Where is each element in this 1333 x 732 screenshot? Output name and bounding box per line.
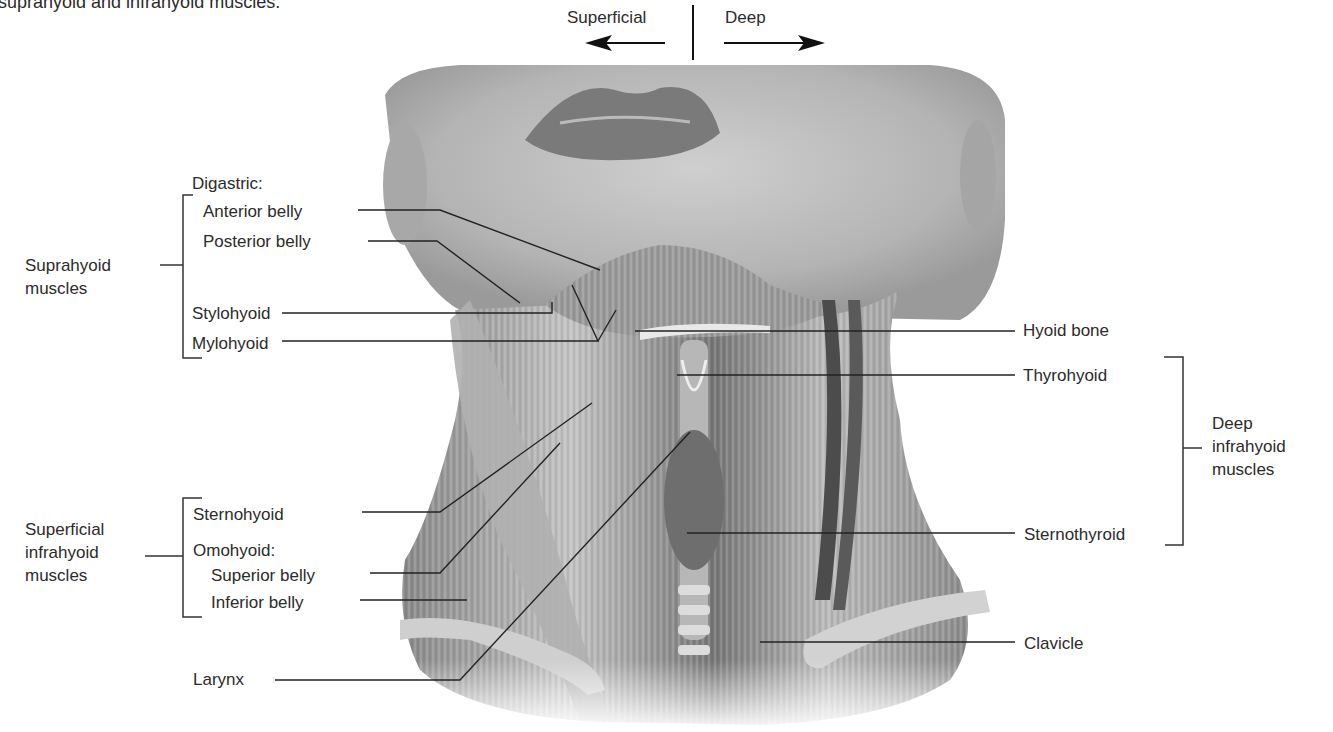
neck-anatomy-illustration	[0, 0, 1333, 732]
label-mylohyoid: Mylohyoid	[192, 334, 269, 354]
label-superior-belly: Superior belly	[211, 566, 315, 586]
label-clavicle: Clavicle	[1024, 634, 1084, 654]
label-hyoid-bone: Hyoid bone	[1023, 321, 1109, 341]
bracket-deep-infrahyoid	[1164, 357, 1202, 545]
group-suprahyoid-muscles: Suprahyoid muscles	[25, 254, 111, 300]
label-stylohyoid: Stylohyoid	[192, 304, 270, 324]
label-omohyoid: Omohyoid:	[193, 541, 275, 561]
label-sternohyoid: Sternohyoid	[193, 505, 284, 525]
deep-direction-label: Deep	[725, 8, 766, 28]
label-anterior-belly: Anterior belly	[203, 202, 302, 222]
label-sternothyroid: Sternothyroid	[1024, 525, 1125, 545]
label-digastric: Digastric:	[192, 174, 263, 194]
label-thyrohyoid: Thyrohyoid	[1023, 366, 1107, 386]
label-larynx: Larynx	[193, 670, 244, 690]
right-ear	[960, 120, 996, 230]
group-deep-infrahyoid-muscles: Deep infrahyoid muscles	[1212, 412, 1286, 481]
label-posterior-belly: Posterior belly	[203, 232, 311, 252]
left-ear	[383, 125, 427, 245]
group-superficial-infrahyoid-muscles: Superficial infrahyoid muscles	[25, 518, 104, 587]
label-inferior-belly: Inferior belly	[211, 593, 304, 613]
superficial-direction-label: Superficial	[567, 8, 646, 28]
